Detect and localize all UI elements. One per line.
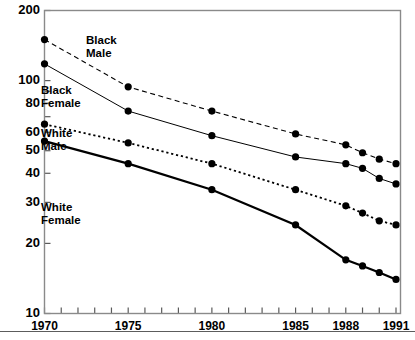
data-point <box>292 130 299 137</box>
series-lines <box>45 40 397 280</box>
data-point <box>376 175 383 182</box>
data-point <box>392 160 399 167</box>
series-annotations: BlackMaleBlackFemaleWhiteMaleWhiteFemale <box>41 34 117 226</box>
y-tick-label: 60 <box>26 124 40 139</box>
data-point <box>292 221 299 228</box>
data-point <box>392 180 399 187</box>
data-point <box>342 256 349 263</box>
data-point <box>359 149 366 156</box>
y-axis-tick-labels: 20010080605040302010 <box>18 2 40 320</box>
data-point <box>342 160 349 167</box>
data-point <box>125 107 132 114</box>
series-line <box>45 124 397 225</box>
data-point <box>376 269 383 276</box>
data-point <box>208 186 215 193</box>
data-point <box>392 276 399 283</box>
data-point <box>125 139 132 146</box>
y-tick-label: 50 <box>26 142 40 157</box>
series-label-line2: Male <box>86 47 112 59</box>
series-label-line1: Black <box>41 84 72 96</box>
data-point <box>292 153 299 160</box>
data-point <box>125 160 132 167</box>
data-point <box>41 60 48 67</box>
data-point <box>359 209 366 216</box>
y-tick-label: 200 <box>18 2 40 17</box>
data-point <box>292 186 299 193</box>
y-tick-label: 20 <box>26 235 40 250</box>
data-point <box>376 156 383 163</box>
series-label-line1: White <box>41 201 72 213</box>
series-label-line2: Female <box>41 97 81 109</box>
y-tick-label: 80 <box>26 95 40 110</box>
data-point <box>359 165 366 172</box>
series-label-black-female: BlackFemale <box>41 84 81 109</box>
x-axis-ticks <box>45 308 397 314</box>
data-point <box>41 36 48 43</box>
data-point <box>342 141 349 148</box>
series-label-line1: White <box>41 127 72 139</box>
chart-page: 20010080605040302010 1970197519801985198… <box>0 0 415 340</box>
series-label-line1: Black <box>86 34 117 46</box>
bottom-divider <box>0 331 415 332</box>
y-tick-label: 30 <box>26 194 40 209</box>
y-axis-ticks <box>45 11 51 314</box>
y-tick-label: 100 <box>18 72 40 87</box>
series-points <box>41 36 400 283</box>
data-point <box>359 262 366 269</box>
data-point <box>392 221 399 228</box>
data-point <box>376 217 383 224</box>
line-chart: 20010080605040302010 1970197519801985198… <box>0 0 415 340</box>
series-label-black-male: BlackMale <box>86 34 117 59</box>
data-point <box>125 83 132 90</box>
data-point <box>208 107 215 114</box>
series-label-white-female: WhiteFemale <box>41 201 81 226</box>
data-point <box>208 160 215 167</box>
series-label-line2: Female <box>41 214 81 226</box>
series-label-line2: Male <box>41 140 67 152</box>
y-tick-label: 40 <box>26 165 40 180</box>
data-point <box>342 202 349 209</box>
data-point <box>208 132 215 139</box>
